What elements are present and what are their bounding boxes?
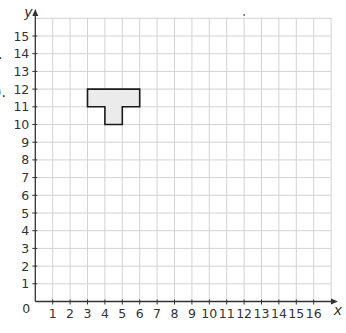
x-axis-label: x [333,302,343,318]
x-tick-label: 5 [118,306,126,321]
y-tick-label: 9 [21,135,29,150]
x-tick-label: 15 [288,306,304,321]
clipped-text-fragment: ). [0,84,6,100]
x-tick-label: 6 [136,306,144,321]
x-tick-label: 2 [66,306,74,321]
coordinate-plane: 1234567891011121314151612345678910111213… [0,0,346,333]
y-tick-label: 2 [21,259,29,274]
x-tick-label: 10 [201,306,217,321]
y-axis-label: y [23,4,33,20]
clipped-text-fragment: · [0,50,2,66]
x-tick-label: 7 [153,306,161,321]
y-tick-label: 6 [21,188,29,203]
y-tick-label: 1 [21,276,29,291]
y-tick-label: 4 [21,223,29,238]
y-tick-label: 10 [13,117,29,132]
x-tick-label: 12 [236,306,252,321]
x-tick-label: 14 [271,306,287,321]
y-tick-label: 8 [21,152,29,167]
origin-label: 0 [22,301,30,316]
x-tick-label: 16 [306,306,322,321]
y-tick-label: 12 [13,82,29,97]
shapes [88,89,140,124]
y-tick-label: 7 [21,170,29,185]
y-tick-label: 11 [13,99,29,114]
y-tick-label: 5 [21,206,29,221]
y-tick-label: 13 [13,64,29,79]
coordinate-grid-figure: · ). 12345678910111213141516123456789101… [0,0,346,333]
x-tick-label: 3 [84,306,92,321]
y-tick-label: 14 [13,46,29,61]
axis-labels: 1234567891011121314151612345678910111213… [13,4,342,321]
x-tick-label: 13 [254,306,270,321]
y-tick-label: 3 [21,241,29,256]
x-tick-label: 4 [101,306,109,321]
t-shape-polygon [88,89,140,124]
grid-lines [35,18,331,302]
x-tick-label: 11 [219,306,235,321]
stray-mark [243,14,245,16]
y-tick-label: 15 [13,29,29,44]
y-axis-arrow-icon [32,9,38,16]
x-tick-label: 1 [49,306,57,321]
x-tick-label: 9 [188,306,196,321]
x-tick-label: 8 [171,306,179,321]
